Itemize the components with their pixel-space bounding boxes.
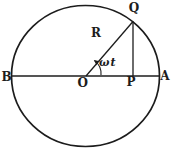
point-label-Q: Q [129,1,139,15]
radius-label-R: R [91,26,102,40]
point-label-B: B [1,70,11,84]
point-label-A: A [159,69,170,83]
point-label-P: P [126,75,135,89]
angle-label-omega-t: ωt [99,56,117,69]
point-label-O: O [77,76,87,90]
circle-diagram: Q R ωt B O P A [0,0,174,159]
figure-canvas: Q R ωt B O P A [0,0,174,159]
